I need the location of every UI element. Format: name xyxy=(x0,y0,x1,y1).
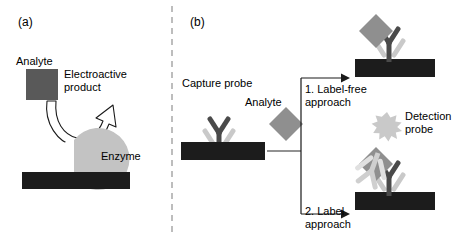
electrode-bar-b-left xyxy=(181,142,265,160)
analyte-square xyxy=(26,69,58,100)
arrow-right-icon-top xyxy=(341,74,350,83)
panel-a-enzyme-label: Enzyme xyxy=(101,150,141,163)
electrode-bar-a xyxy=(22,172,130,189)
electrode-bar-b-bottomright xyxy=(355,192,435,210)
electrode-bar-b-topright xyxy=(355,59,435,77)
figure-canvas: (a) Analyte Electroactive product Enzyme… xyxy=(0,0,467,241)
analyte-diamond-free xyxy=(269,107,303,141)
panel-b-capture-probe-label: Capture probe xyxy=(182,77,252,90)
panel-b-branch1-label: 1. Label-free approach xyxy=(305,83,367,108)
panel-b-analyte-label: Analyte xyxy=(245,96,282,109)
panel-b-detection-probe-label: Detection probe xyxy=(405,110,451,135)
panel-a-electroactive-product-label: Electroactive product xyxy=(64,68,127,93)
enzyme-wedge-fill xyxy=(55,140,74,159)
panel-a-tag: (a) xyxy=(18,16,33,29)
panel-b-tag: (b) xyxy=(190,16,205,29)
diagram-vector-layer xyxy=(0,0,467,241)
panel-b-branch2-label: 2. Label approach xyxy=(305,205,351,230)
panel-a-analyte-label: Analyte xyxy=(16,55,53,68)
star-burst-icon xyxy=(372,112,402,142)
